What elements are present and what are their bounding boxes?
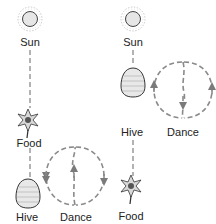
sun-icon	[18, 7, 42, 31]
label-dance: Dance	[60, 211, 92, 223]
label-sun: Sun	[123, 36, 143, 48]
label-food: Food	[118, 210, 143, 222]
sun-icon	[121, 7, 145, 31]
bee-dance-diagram	[0, 0, 216, 224]
flower-icon	[121, 175, 141, 204]
label-dance: Dance	[167, 126, 199, 138]
dance-loop	[154, 62, 212, 118]
dance-loop	[46, 147, 104, 205]
beehive-icon	[121, 68, 145, 97]
label-hive: Hive	[121, 126, 143, 138]
label-sun: Sun	[20, 36, 40, 48]
flower-icon	[18, 109, 38, 138]
label-food: Food	[16, 137, 41, 149]
beehive-icon	[16, 179, 40, 208]
label-hive: Hive	[16, 211, 38, 223]
